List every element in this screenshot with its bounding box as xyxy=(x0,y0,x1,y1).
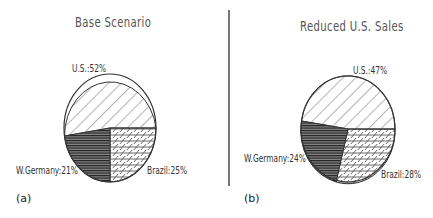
label-brazil-b: Brazil:28% xyxy=(381,168,421,181)
panel-label-a: (a) xyxy=(16,192,31,205)
label-germany-b: W.Germany:24% xyxy=(244,152,306,165)
label-germany-a: W.Germany:21% xyxy=(16,164,78,177)
panel-label-b: (b) xyxy=(244,192,260,205)
panel-divider xyxy=(228,10,230,186)
label-us-a: U.S.:52% xyxy=(72,62,106,75)
label-brazil-a: Brazil:25% xyxy=(147,164,187,177)
chart-title-b: Reduced U.S. Sales xyxy=(300,18,404,34)
slice-us-b xyxy=(302,76,396,129)
label-us-b: U.S.:47% xyxy=(353,64,387,77)
chart-title-a: Base Scenario xyxy=(75,14,151,30)
